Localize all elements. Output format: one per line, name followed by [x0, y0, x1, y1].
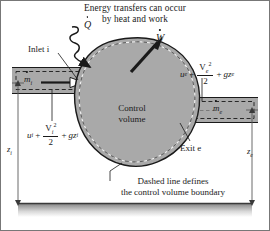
mass-flow-out-symbol: m [213, 103, 220, 113]
height-inlet-label: zi [7, 145, 12, 156]
work-symbol: W [156, 32, 164, 43]
exit-label: Exit e [180, 143, 201, 153]
heat-symbol: Q [84, 19, 91, 30]
exit-label-text: Exit e [180, 143, 201, 153]
inlet-internal-subscript: i [32, 132, 34, 139]
figure-title-line2: by heat and work [102, 14, 168, 24]
ground-surface [18, 203, 252, 217]
height-exit-subscript: e [250, 152, 253, 158]
inlet-velocity-subscript: i [52, 129, 54, 135]
control-volume-line2: volume [119, 114, 146, 124]
mass-flow-in-label: mi [24, 74, 32, 87]
mass-flow-in-symbol: m [24, 74, 31, 84]
exit-velocity-exponent: 2 [209, 61, 212, 67]
height-inlet-subscript: i [10, 150, 12, 156]
inlet-energy-equation: ui + Vi2 2 + gzi [27, 123, 78, 148]
boundary-caption-line2: the control volume boundary [121, 187, 225, 197]
control-volume-label: Control volume [110, 103, 154, 126]
work-transfer-label: W [156, 32, 164, 44]
exit-kinetic-numerator: Ve2 [197, 61, 213, 76]
exit-kinetic-denominator: 2 [197, 76, 213, 86]
inlet-kinetic-denominator: 2 [43, 137, 58, 147]
inlet-plus-1: + [35, 130, 40, 140]
exit-plus-2: + [216, 69, 221, 79]
exit-potential-subscript: e [232, 71, 235, 78]
figure-title: Energy transfers can occur by heat and w… [0, 3, 270, 24]
figure-canvas: Energy transfers can occur by heat and w… [0, 0, 270, 231]
boundary-caption: Dashed line defines the control volume b… [88, 176, 258, 199]
inlet-plus-2: + [61, 130, 66, 140]
heat-transfer-label: Q [84, 19, 91, 31]
exit-potential-energy: gz [224, 69, 232, 79]
boundary-caption-line1: Dashed line defines [138, 176, 209, 186]
inlet-velocity-exponent: 2 [53, 122, 56, 128]
height-dimension-inlet [12, 80, 24, 206]
inlet-potential-subscript: i [77, 132, 79, 139]
exit-energy-equation: ue + Ve2 2 + gze [180, 62, 234, 87]
inlet-potential-energy: gz [69, 130, 77, 140]
mass-flow-out-label: me [213, 103, 222, 116]
figure-title-line1: Energy transfers can occur [84, 3, 186, 13]
height-exit-label: ze [247, 147, 253, 158]
exit-internal-subscript: e [185, 71, 188, 78]
inlet-label: Inlet i [28, 44, 49, 54]
exit-velocity-subscript: e [206, 68, 209, 74]
inlet-kinetic-fraction: Vi2 2 [43, 122, 58, 147]
inlet-label-text: Inlet i [28, 44, 49, 54]
exit-plus-1: + [189, 69, 194, 79]
inlet-kinetic-numerator: Vi2 [43, 122, 58, 137]
control-volume-line1: Control [118, 103, 146, 113]
exit-kinetic-fraction: Ve2 2 [197, 61, 213, 86]
